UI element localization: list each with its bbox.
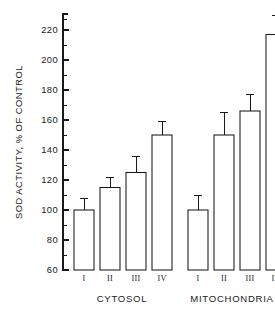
bar-mitochondria-III — [240, 111, 260, 270]
bar-mitochondria-I — [188, 210, 208, 270]
bar-mitochondria-IV — [266, 35, 275, 271]
y-tick-label-60: 60 — [47, 264, 58, 275]
bar-label-mitochondria-II: II — [221, 274, 227, 283]
y-axis-title: SOD ACTIVITY, % OF CONTROL — [14, 65, 24, 219]
bar-label-mitochondria-III: III — [246, 274, 255, 283]
bar-label-cytosol-III: III — [132, 274, 141, 283]
y-axis-spine — [63, 14, 68, 270]
y-tick-label-140: 140 — [41, 144, 58, 155]
y-tick-label-120: 120 — [41, 174, 58, 185]
y-axis-major-ticks — [63, 30, 69, 270]
bar-label-cytosol-IV: IV — [157, 274, 166, 283]
bar-cytosol-III — [126, 173, 146, 271]
bar-group-mitochondria — [188, 15, 275, 270]
chart-canvas: 60 80 100 120 140 160 180 200 220 SOD AC… — [0, 0, 275, 325]
bar-cytosol-I — [74, 210, 94, 270]
y-tick-label-100: 100 — [41, 204, 58, 215]
bar-group-cytosol — [74, 122, 172, 271]
bar-label-cytosol-I: I — [83, 274, 86, 283]
bar-label-mitochondria-IV: IV — [271, 274, 275, 283]
bar-label-mitochondria-I: I — [197, 274, 200, 283]
bar-label-cytosol-II: II — [107, 274, 113, 283]
sod-activity-bar-chart: 60 80 100 120 140 160 180 200 220 SOD AC… — [0, 0, 275, 325]
y-axis-minor-ticks — [63, 19, 67, 255]
group-label-cytosol: CYTOSOL — [97, 293, 148, 304]
bar-cytosol-IV — [152, 135, 172, 270]
y-tick-label-220: 220 — [41, 24, 58, 35]
y-tick-label-200: 200 — [41, 54, 58, 65]
bar-mitochondria-II — [214, 135, 234, 270]
y-tick-label-80: 80 — [47, 234, 58, 245]
group-label-mitochondria: MITOCHONDRIA — [190, 293, 273, 304]
bar-cytosol-II — [100, 188, 120, 271]
y-tick-label-160: 160 — [41, 114, 58, 125]
y-tick-label-180: 180 — [41, 84, 58, 95]
